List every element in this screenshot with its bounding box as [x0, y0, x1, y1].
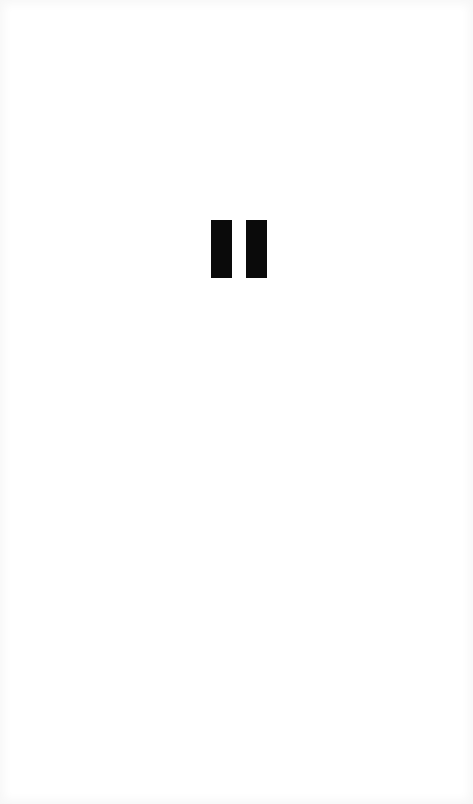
pause-button[interactable]: Pause — [211, 220, 267, 278]
pause-bar-left — [211, 220, 232, 278]
blank-screen: Pause — [0, 0, 473, 804]
pause-bar-right — [246, 220, 267, 278]
